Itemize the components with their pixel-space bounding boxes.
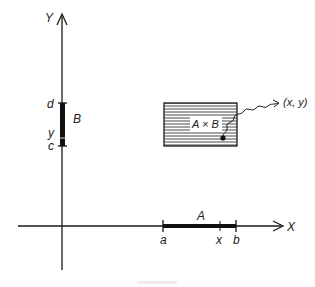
segment-b-label: B [73, 112, 81, 126]
cartesian-product-diagram: Y X d y c B a x b A A × B (x, y) [0, 0, 315, 287]
product-label: A × B [191, 118, 219, 130]
segment-b-end-label: d [47, 97, 54, 111]
segment-a-end-label: b [233, 233, 240, 247]
x-axis: X [18, 220, 296, 234]
segment-b: d y c B [47, 97, 81, 153]
x-axis-label: X [286, 220, 296, 234]
segment-a-point-label: x [215, 233, 223, 247]
caption-remnant [137, 281, 177, 284]
segment-b-start-label: c [48, 139, 54, 153]
point-xy-label: (x, y) [283, 96, 308, 108]
segment-a-label: A [196, 209, 205, 223]
y-axis-label: Y [45, 11, 54, 25]
segment-b-point-label: y [47, 126, 55, 140]
product-rectangle: A × B (x, y) [164, 96, 308, 146]
segment-a: a x b A [160, 209, 240, 247]
segment-a-start-label: a [160, 233, 167, 247]
